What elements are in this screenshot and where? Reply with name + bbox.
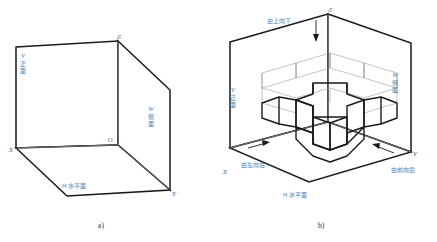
panel-a-w-name-char2: 面 bbox=[148, 120, 154, 128]
arrow-left-right-label: 由左向右 bbox=[241, 161, 265, 169]
panel-a-h-plane-label: H 水平面 bbox=[62, 182, 86, 190]
panel-a-v-name-char1: 正 bbox=[20, 60, 26, 67]
panel-b-axis-x-label: X bbox=[222, 168, 228, 176]
v-plane-outline bbox=[16, 41, 118, 148]
panel-a-axis-x-label: X bbox=[8, 146, 14, 154]
panel-b-w-plane-label: W 侧 面 bbox=[392, 71, 398, 94]
three-projection-plane-figure: Z X Y O V 正 面 W 侧 面 H 水平面 a) bbox=[0, 0, 437, 242]
panel-a-w-letter: W bbox=[148, 105, 154, 112]
panel-a-w-plane-label: W 侧 面 bbox=[148, 105, 154, 128]
panel-b-h-plane-label: H 水平面 bbox=[283, 191, 307, 199]
arrow-top-down-label: 由上向下 bbox=[267, 17, 291, 25]
arrow-front-back-label: 由前向后 bbox=[391, 166, 415, 174]
panel-a-v-plane bbox=[16, 41, 118, 148]
panel-b-w-name-char2: 面 bbox=[392, 86, 398, 94]
panel-b-v-name-char2: 面 bbox=[230, 101, 236, 109]
panel-b-axis-z-label: Z bbox=[328, 6, 332, 14]
panel-a-v-name-char2: 面 bbox=[20, 67, 26, 75]
panel-b-caption: b) bbox=[318, 221, 325, 230]
panel-a-origin-label: O bbox=[107, 136, 112, 144]
figure-canvas: Z X Y O V 正 面 W 侧 面 H 水平面 a) bbox=[0, 0, 437, 242]
panel-b-v-name-char1: 正 bbox=[230, 94, 236, 101]
panel-a-axis-z-label: Z bbox=[117, 33, 121, 41]
panel-a-caption: a) bbox=[98, 221, 104, 230]
panel-b-w-letter: W bbox=[392, 71, 398, 78]
